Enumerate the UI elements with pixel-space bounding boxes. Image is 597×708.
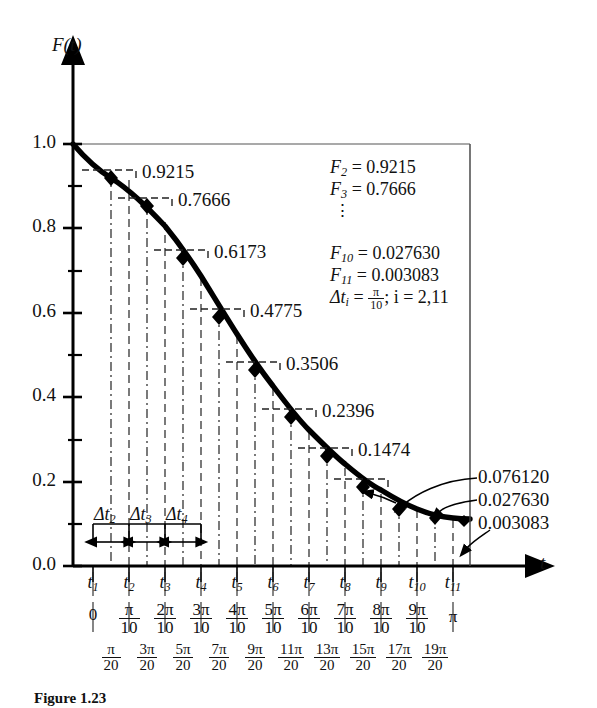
fraction-numerator: 4π xyxy=(226,601,247,619)
point-value-label: 0.7666 xyxy=(178,189,230,211)
fraction-denominator: 10 xyxy=(154,619,175,636)
fraction-denominator: 20 xyxy=(137,658,156,673)
point-value-label: 0.1474 xyxy=(358,439,410,461)
fraction-numerator: 5π xyxy=(173,642,192,658)
delta-t-sub: 3 xyxy=(146,512,152,526)
fraction-numerator: π xyxy=(102,642,121,658)
fraction-denominator: 10 xyxy=(262,619,283,636)
annotation-sub: 2 xyxy=(341,165,347,179)
y-tick-label: 0.8 xyxy=(10,215,56,237)
annotation-sub: i xyxy=(346,295,349,309)
fraction-denominator: 20 xyxy=(209,658,228,673)
figure-caption: Figure 1.23 xyxy=(34,690,106,707)
delta-t-label: Δt4 xyxy=(166,504,188,527)
delta-t-text: Δt xyxy=(94,504,110,524)
annotation-tail: ; i = 2,11 xyxy=(384,287,449,307)
fraction-denominator: 10 xyxy=(190,619,211,636)
y-tick-label: 0.0 xyxy=(10,553,56,575)
fraction-numerator: 5π xyxy=(262,601,283,619)
fraction-numerator: 19π xyxy=(422,642,449,658)
callout-value: 0.076120 xyxy=(478,466,549,488)
y-axis-minor-ticks xyxy=(68,186,82,524)
point-value-label: 0.3506 xyxy=(286,353,338,375)
annotation-value: 0.9215 xyxy=(366,157,416,177)
fraction-denominator: 10 xyxy=(334,619,355,636)
fraction-denominator: 10 xyxy=(298,619,319,636)
fraction-denominator: 20 xyxy=(102,658,121,673)
fraction-numerator: 9π xyxy=(406,601,427,619)
fraction-numerator: 3π xyxy=(190,601,211,619)
delta-t-text: Δt xyxy=(166,504,182,524)
y-tick-label: 0.4 xyxy=(10,384,56,406)
fraction-denominator: 20 xyxy=(245,658,264,673)
y-tick-label: 0.6 xyxy=(10,300,56,322)
fraction-numerator: π xyxy=(368,286,384,299)
fraction-numerator: 7π xyxy=(209,642,228,658)
fraction-denominator: 10 xyxy=(368,299,384,311)
annotation-value: 0.027630 xyxy=(372,243,440,263)
y-tick-label: 1.0 xyxy=(10,131,56,153)
delta-t-label: Δt2 xyxy=(94,504,116,527)
x-tick-label: π xyxy=(427,607,479,627)
interval-label-t11: t11 xyxy=(430,572,476,595)
delta-t-sub: 4 xyxy=(182,512,188,526)
annotation-line-F2: F2 = 0.9215 xyxy=(330,157,416,180)
fraction-denominator: 20 xyxy=(422,658,449,673)
fraction-denominator: 20 xyxy=(173,658,192,673)
x-tick-text: 0 xyxy=(89,605,98,624)
point-value-label: 0.2396 xyxy=(322,400,374,422)
point-value-label: 0.4775 xyxy=(250,300,302,322)
callout-value: 0.027630 xyxy=(478,489,549,511)
fraction-denominator: 10 xyxy=(226,619,247,636)
x-axis-label: t xyxy=(540,552,545,574)
x-midpoint-label: 19π20 xyxy=(409,642,461,674)
delta-t-label: Δt3 xyxy=(130,504,152,527)
fraction-numerator: 6π xyxy=(298,601,319,619)
annotation-vdots: ⋮ xyxy=(334,200,351,221)
fraction-numerator: 9π xyxy=(245,642,264,658)
annotation-value: 0.003083 xyxy=(371,265,439,285)
fraction-denominator: 10 xyxy=(406,619,427,636)
annotation-value: 0.7666 xyxy=(366,179,416,199)
y-tick-label: 0.2 xyxy=(10,469,56,491)
annotation-sub: 10 xyxy=(341,251,353,265)
annotation-fraction: π 10 xyxy=(368,286,384,311)
fraction-denominator: 10 xyxy=(119,619,140,636)
y-axis-label: F(t) xyxy=(52,34,82,56)
delta-t-sub: 2 xyxy=(110,512,116,526)
delta-t-text: Δt xyxy=(130,504,146,524)
fraction-numerator: 3π xyxy=(137,642,156,658)
point-value-label: 0.9215 xyxy=(142,161,194,183)
plot-frame xyxy=(73,144,470,566)
annotation-line-F10: F10 = 0.027630 xyxy=(330,243,440,266)
fraction-numerator: 2π xyxy=(154,601,175,619)
annotation-line-delta-t: Δti = π 10 ; i = 2,11 xyxy=(330,286,449,311)
annotation-line-F3: F3 = 0.7666 xyxy=(330,179,416,202)
fraction-numerator: π xyxy=(119,601,140,619)
fraction-numerator: 7π xyxy=(334,601,355,619)
annotation-line-F11: F11 = 0.003083 xyxy=(330,265,439,288)
data-point-markers xyxy=(104,170,470,527)
fraction-numerator: 8π xyxy=(370,601,391,619)
x-tick-text: π xyxy=(449,607,458,626)
point-value-label: 0.6173 xyxy=(214,241,266,263)
fraction-denominator: 10 xyxy=(370,619,391,636)
callout-value: 0.003083 xyxy=(478,512,549,534)
